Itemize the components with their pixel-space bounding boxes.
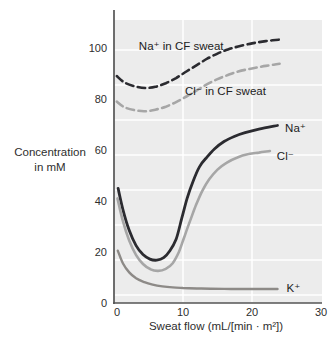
y-tick-label: 60 bbox=[95, 144, 107, 156]
x-tick-label: 10 bbox=[177, 306, 189, 318]
curve-label-k-normal: K⁺ bbox=[287, 282, 301, 294]
chart-figure: 0204060801000102030 Na⁺ in CF sweatCl⁻ i… bbox=[0, 0, 333, 341]
x-tick-label: 0 bbox=[114, 306, 120, 318]
curve-label-cl-normal: Cl⁻ bbox=[277, 150, 294, 162]
y-axis-label-line1: Concentration bbox=[14, 146, 86, 158]
y-tick-label: 20 bbox=[95, 246, 107, 258]
y-tick-label: 100 bbox=[89, 42, 107, 54]
y-axis-label-line2: in mM bbox=[34, 161, 65, 173]
x-tick-label: 20 bbox=[246, 306, 258, 318]
x-axis-label: Sweat flow (mL/[min · m²]) bbox=[149, 320, 283, 332]
x-tick-label: 30 bbox=[315, 306, 327, 318]
y-tick-label: 80 bbox=[95, 93, 107, 105]
curve-label-cl-cf-sweat: Cl⁻ in CF sweat bbox=[185, 85, 267, 97]
y-tick-label: 0 bbox=[101, 297, 107, 309]
curve-label-na-cf-sweat: Na⁺ in CF sweat bbox=[139, 40, 224, 52]
concentration-vs-sweat-flow-chart: 0204060801000102030 Na⁺ in CF sweatCl⁻ i… bbox=[0, 0, 333, 341]
curve-label-na-normal: Na⁺ bbox=[285, 122, 306, 134]
y-tick-label: 40 bbox=[95, 195, 107, 207]
